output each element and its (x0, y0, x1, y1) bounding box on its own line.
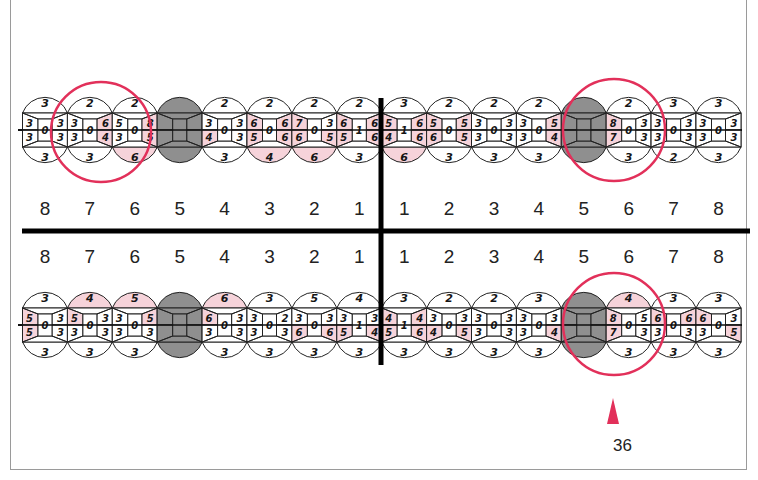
tooth-number-upper: 3 (489, 198, 500, 219)
probing-bottom: 3 (535, 346, 543, 359)
probing-bottom: 3 (221, 151, 229, 164)
probing-left-top: 5 (26, 313, 33, 324)
probing-right-bottom: 4 (550, 132, 558, 143)
probing-right-top: 3 (371, 313, 378, 324)
probing-right-bottom: 4 (370, 327, 378, 338)
probing-right-bottom: 3 (237, 327, 244, 338)
probing-top: 2 (221, 97, 229, 110)
probing-left-bottom: 3 (26, 132, 33, 143)
tooth-number-lower: 3 (264, 246, 275, 267)
tooth-number-lower: 8 (40, 246, 51, 267)
tooth-number-upper: 1 (354, 198, 365, 219)
probing-bottom: 3 (400, 346, 408, 359)
probing-right-bottom: 3 (731, 132, 738, 143)
probing-bottom: 3 (266, 346, 274, 359)
tooth-number-upper: 4 (534, 198, 545, 219)
probing-left-bottom: 7 (610, 132, 617, 143)
tooth-number-lower: 1 (354, 246, 365, 267)
probing-right-bottom: 3 (237, 132, 244, 143)
probing-left-bottom: 3 (475, 132, 482, 143)
probing-right-bottom: 6 (416, 327, 423, 338)
probing-left-top: 7 (295, 118, 302, 129)
probing-right-top: 3 (551, 313, 558, 324)
probing-left-top: 6 (206, 313, 213, 324)
probing-right-bottom: 4 (550, 327, 558, 338)
probing-left-bottom: 3 (520, 132, 527, 143)
probing-left-top: 6 (700, 313, 707, 324)
probing-top: 2 (625, 97, 633, 110)
tooth-number-upper: 1 (399, 198, 410, 219)
probing-bottom: 3 (355, 346, 363, 359)
probing-right-bottom: 3 (57, 327, 64, 338)
tooth-number-lower: 1 (399, 246, 410, 267)
probing-top: 2 (445, 97, 453, 110)
tooth-number-lower: 5 (174, 246, 185, 267)
probing-right-top: 3 (641, 118, 648, 129)
probing-right-top: 3 (506, 313, 513, 324)
probing-top: 2 (86, 97, 94, 110)
probing-left-bottom: 3 (700, 132, 707, 143)
probing-bottom: 2 (670, 151, 678, 164)
probing-bottom: 3 (131, 346, 139, 359)
probing-bottom: 3 (445, 151, 453, 164)
probing-right-top: 2 (282, 313, 289, 324)
probing-bottom: 3 (41, 346, 49, 359)
probing-left-bottom: 3 (475, 327, 482, 338)
probing-right-bottom: 3 (506, 132, 513, 143)
probing-bottom: 3 (86, 346, 94, 359)
tooth-number-lower: 6 (623, 246, 634, 267)
probing-top: 4 (85, 292, 94, 305)
probing-left-top: 5 (430, 118, 437, 129)
tooth-number-upper: 5 (579, 198, 590, 219)
probing-left-top: 3 (430, 313, 437, 324)
probing-left-top: 5 (385, 118, 392, 129)
probing-top: 3 (670, 97, 678, 110)
probing-top: 3 (400, 292, 408, 305)
probing-bottom: 3 (625, 346, 633, 359)
probing-top: 2 (490, 97, 498, 110)
probing-bottom: 3 (311, 346, 319, 359)
probing-right-bottom: 3 (102, 327, 109, 338)
tooth-number-upper: 6 (623, 198, 634, 219)
probing-left-bottom: 4 (384, 132, 392, 143)
probing-bottom: 3 (86, 151, 94, 164)
tooth-number-upper: 5 (174, 198, 185, 219)
probing-left-bottom: 3 (700, 327, 707, 338)
probing-right-top: 6 (371, 118, 378, 129)
probing-right-top: 3 (686, 118, 693, 129)
probing-left-bottom: 3 (206, 327, 213, 338)
probing-top: 2 (311, 97, 319, 110)
probing-left-bottom: 3 (71, 327, 78, 338)
probing-right-top: 4 (415, 313, 423, 324)
probing-bottom: 3 (41, 151, 49, 164)
probing-right-bottom: 6 (371, 132, 378, 143)
probing-left-top: 3 (655, 118, 662, 129)
probing-right-top: 3 (326, 118, 333, 129)
probing-right-top: 3 (57, 118, 64, 129)
probing-right-bottom: 3 (147, 327, 154, 338)
probing-top: 3 (41, 292, 49, 305)
tooth-number-lower: 3 (489, 246, 500, 267)
probing-right-bottom: 5 (461, 327, 468, 338)
probing-right-top: 5 (461, 118, 468, 129)
probing-left-bottom: 6 (295, 327, 302, 338)
probing-top: 2 (535, 97, 543, 110)
probing-top: 5 (131, 292, 139, 305)
probing-bottom: 3 (490, 346, 498, 359)
probing-left-bottom: 3 (655, 327, 662, 338)
periodontal-chart: 3333330233364026538502334330246566026763… (0, 0, 758, 480)
probing-left-bottom: 3 (655, 132, 662, 143)
probing-right-bottom: 5 (461, 132, 468, 143)
probing-left-top: 3 (26, 118, 33, 129)
probing-right-top: 3 (102, 313, 109, 324)
probing-left-bottom: 6 (430, 132, 437, 143)
probing-top: 3 (715, 97, 723, 110)
probing-left-bottom: 5 (385, 327, 392, 338)
probing-right-top: 6 (102, 118, 109, 129)
probing-right-bottom: 6 (326, 327, 333, 338)
probing-left-top: 6 (340, 118, 347, 129)
probing-left-bottom: 5 (340, 132, 347, 143)
probing-right-bottom: 5 (326, 132, 333, 143)
probing-top: 2 (355, 97, 363, 110)
probing-right-bottom: 6 (416, 132, 423, 143)
